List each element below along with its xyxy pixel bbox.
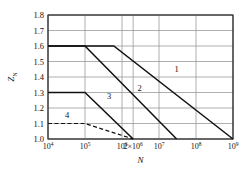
curve-label-3: 3 [107, 91, 111, 101]
curve-label-4: 4 [65, 110, 70, 120]
y-tick-label: 1.3 [33, 88, 44, 98]
y-tick-label: 1.2 [33, 103, 44, 113]
x-tick-label: 2×106 [124, 141, 144, 151]
svg-text:ZN: ZN [6, 72, 18, 82]
y-tick-label: 1.1 [33, 119, 44, 129]
curve-label-2: 2 [138, 83, 142, 93]
x-tick-label: 104 [43, 141, 54, 151]
x-tick-label: 108 [191, 141, 202, 151]
y-tick-label: 1.7 [33, 26, 44, 36]
y-tick-label: 1.5 [33, 57, 44, 67]
x-tick-label: 105 [80, 141, 91, 151]
y-tick-label: 1.6 [33, 41, 44, 51]
y-axis-title: ZN [6, 72, 18, 82]
x-tick-label: 109 [228, 141, 239, 151]
y-tick-label: 1.8 [33, 10, 44, 20]
curve-3 [48, 93, 133, 140]
y-tick-label: 1.4 [33, 72, 44, 82]
x-axis-title: N [136, 155, 144, 165]
curve-label-1: 1 [175, 64, 179, 74]
chart-figure: 1.01.11.21.31.41.51.61.71.81041051062×10… [0, 0, 251, 169]
semilog-line-chart: 1.01.11.21.31.41.51.61.71.81041051062×10… [0, 0, 251, 169]
x-tick-label: 107 [154, 141, 165, 151]
